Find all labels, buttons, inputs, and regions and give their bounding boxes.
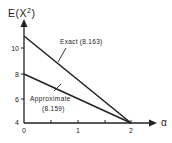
approximate-value-annotation: (8.159) <box>42 105 65 113</box>
y-tick-label-4: 4 <box>15 119 19 126</box>
x-tick-label-0: 0 <box>22 127 26 134</box>
chart: 10 8 6 4 0 1 2 E(X2) α Exact (8.163) App… <box>0 0 172 143</box>
y-tick-label-6: 6 <box>15 96 19 103</box>
exact-annotation: Exact (8.163) <box>60 38 103 46</box>
y-tick-label-8: 8 <box>15 71 19 78</box>
exact-leader <box>58 48 66 62</box>
y-tick-label-10: 10 <box>11 45 19 52</box>
x-axis-arrow-icon <box>149 120 157 127</box>
x-tick-label-1: 1 <box>76 127 80 134</box>
y-axis-label: E(X2) <box>8 7 35 19</box>
x-tick-label-2: 2 <box>129 127 133 134</box>
exact-line <box>24 36 131 123</box>
x-axis-label: α <box>161 117 167 128</box>
approximate-annotation: Approximate <box>30 95 71 103</box>
y-axis-arrow-icon <box>21 19 28 27</box>
